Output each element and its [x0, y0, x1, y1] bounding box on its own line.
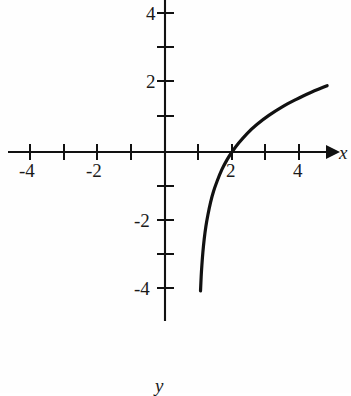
x-tick-label-pos2: 2: [226, 161, 236, 180]
x-tick-label-neg2: -2: [86, 161, 102, 180]
log-curve: [201, 86, 328, 291]
x-tick-label-neg4: -4: [19, 161, 35, 180]
x-tick-label-pos4: 4: [293, 161, 303, 180]
y-tick-label-neg2: -2: [134, 211, 150, 230]
y-tick-label-neg4: -4: [134, 279, 150, 298]
y-axis-label: y: [155, 376, 163, 395]
y-tick-label-pos4: 4: [146, 4, 156, 23]
x-axis-arrow-icon: [326, 145, 340, 159]
x-axis-label: x: [339, 143, 347, 162]
y-tick-label-pos2: 2: [146, 72, 156, 91]
